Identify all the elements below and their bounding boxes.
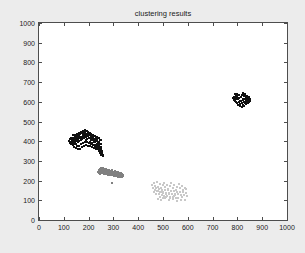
data-point — [170, 182, 172, 184]
x-axis-tick — [89, 23, 90, 26]
data-point — [181, 196, 183, 198]
data-point — [163, 182, 165, 184]
data-point — [172, 198, 174, 200]
data-point — [165, 196, 167, 198]
y-axis-tick-label: 300 — [5, 158, 35, 165]
x-axis-tick — [39, 23, 40, 26]
data-point — [238, 97, 240, 99]
data-point — [173, 190, 175, 192]
data-point — [185, 192, 187, 194]
y-axis-tick — [284, 62, 287, 63]
data-point — [183, 194, 185, 196]
x-axis-tick — [213, 217, 214, 220]
data-point — [79, 148, 81, 150]
x-axis-tick — [262, 217, 263, 220]
data-point — [111, 182, 113, 184]
y-axis-tick — [284, 102, 287, 103]
y-axis-tick — [39, 200, 42, 201]
y-axis-tick — [39, 122, 42, 123]
x-axis-tick — [163, 23, 164, 26]
y-axis-tick — [39, 220, 42, 221]
data-point — [161, 189, 163, 191]
data-point — [186, 195, 188, 197]
data-point — [247, 102, 249, 104]
x-axis-tick — [287, 217, 288, 220]
figure-container: clustering results 010020030040050060070… — [0, 0, 305, 253]
page-text-fragment — [0, 243, 305, 253]
y-axis-tick-label: 100 — [5, 197, 35, 204]
y-axis-tick — [284, 200, 287, 201]
data-point — [102, 154, 104, 156]
y-axis-tick — [39, 43, 42, 44]
data-point — [161, 194, 163, 196]
x-axis-tick — [64, 217, 65, 220]
data-point — [177, 193, 179, 195]
data-point — [185, 188, 187, 190]
y-axis-tick-label: 600 — [5, 99, 35, 106]
y-axis-tick-label: 900 — [5, 40, 35, 47]
y-axis-tick — [284, 43, 287, 44]
data-point — [156, 181, 158, 183]
data-point — [184, 199, 186, 201]
x-axis-tick — [113, 23, 114, 26]
y-axis-tick — [39, 141, 42, 142]
x-axis-tick — [188, 217, 189, 220]
x-axis-tick — [188, 23, 189, 26]
data-point — [155, 193, 157, 195]
data-point — [178, 183, 180, 185]
data-point — [181, 185, 183, 187]
data-point — [156, 190, 158, 192]
data-point — [234, 93, 236, 95]
data-point — [162, 192, 164, 194]
data-point — [172, 187, 174, 189]
data-point — [164, 186, 166, 188]
chart-title: clustering results — [38, 9, 288, 19]
y-axis-tick-label: 0 — [5, 217, 35, 224]
data-point — [78, 145, 80, 147]
x-axis-tick — [39, 217, 40, 220]
data-point — [162, 184, 164, 186]
y-axis-tick — [39, 102, 42, 103]
data-point — [170, 190, 172, 192]
data-point — [235, 98, 237, 100]
data-point — [98, 144, 100, 146]
data-point — [121, 176, 123, 178]
x-axis-tick — [237, 217, 238, 220]
x-axis-tick — [89, 217, 90, 220]
x-axis-tick — [138, 217, 139, 220]
data-point — [99, 139, 101, 141]
data-point — [155, 187, 157, 189]
data-point — [99, 146, 101, 148]
data-point — [168, 199, 170, 201]
data-point — [153, 182, 155, 184]
x-axis-tick — [138, 23, 139, 26]
y-axis-tick-label: 400 — [5, 138, 35, 145]
scatter-points-layer — [39, 23, 289, 222]
x-axis-tick — [287, 23, 288, 26]
x-axis-tick — [113, 217, 114, 220]
y-axis-tick — [284, 181, 287, 182]
data-point — [167, 189, 169, 191]
data-point — [159, 196, 161, 198]
y-axis-tick — [284, 122, 287, 123]
data-point — [166, 184, 168, 186]
y-axis-tick-label: 800 — [5, 59, 35, 66]
y-axis-tick-label: 700 — [5, 79, 35, 86]
data-point — [176, 191, 178, 193]
data-point — [164, 189, 166, 191]
data-point — [180, 199, 182, 201]
data-point — [165, 193, 167, 195]
data-point — [162, 197, 164, 199]
data-point — [169, 185, 171, 187]
y-axis-tick — [284, 141, 287, 142]
data-point — [179, 187, 181, 189]
y-axis-tick — [39, 161, 42, 162]
data-point — [182, 191, 184, 193]
y-axis-tick-label: 200 — [5, 178, 35, 185]
y-axis-tick-label: 500 — [5, 119, 35, 126]
y-axis-tick-label: 1000 — [5, 20, 35, 27]
y-axis-tick — [39, 62, 42, 63]
data-point — [234, 100, 236, 102]
data-point — [159, 183, 161, 185]
x-axis-tick — [163, 217, 164, 220]
